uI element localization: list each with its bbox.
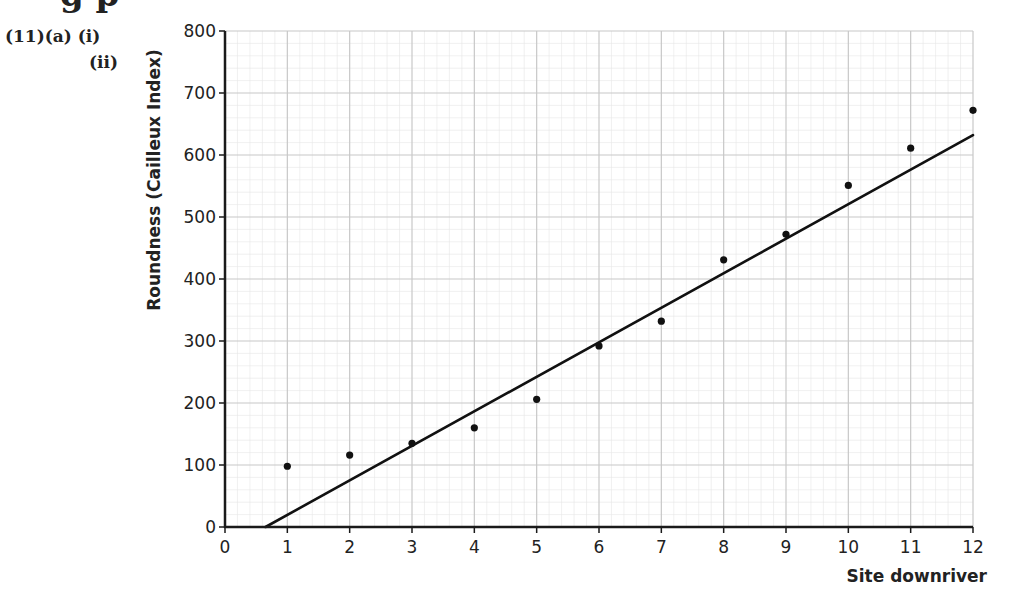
data-point: [782, 231, 789, 238]
x-tick-label: 4: [469, 537, 480, 557]
data-point: [969, 107, 976, 114]
y-tick-label: 500: [184, 207, 216, 227]
y-axis-ticks: 0100200300400500600700800: [184, 21, 225, 537]
x-tick-label: 1: [282, 537, 293, 557]
x-tick-label: 0: [220, 537, 231, 557]
x-tick-label: 8: [718, 537, 729, 557]
data-point: [720, 256, 727, 263]
x-axis-title: Site downriver: [846, 566, 987, 586]
best-fit-line: [266, 135, 973, 527]
best-fit-line-path: [266, 135, 973, 527]
scatter-chart: 0123456789101112 01002003004005006007008…: [0, 0, 1009, 595]
data-point: [845, 182, 852, 189]
x-tick-label: 2: [344, 537, 355, 557]
x-axis-ticks: 0123456789101112: [220, 527, 984, 557]
data-point: [471, 424, 478, 431]
y-tick-label: 800: [184, 21, 216, 41]
data-point: [284, 463, 291, 470]
y-tick-label: 700: [184, 83, 216, 103]
data-point: [346, 451, 353, 458]
x-tick-label: 6: [594, 537, 605, 557]
data-point: [595, 342, 602, 349]
y-tick-label: 0: [205, 517, 216, 537]
y-tick-label: 300: [184, 331, 216, 351]
x-tick-label: 12: [962, 537, 984, 557]
x-tick-label: 10: [838, 537, 860, 557]
y-tick-label: 600: [184, 145, 216, 165]
x-tick-label: 3: [407, 537, 418, 557]
y-tick-label: 200: [184, 393, 216, 413]
data-point: [658, 318, 665, 325]
x-tick-label: 9: [781, 537, 792, 557]
x-tick-label: 11: [900, 537, 922, 557]
data-point: [907, 145, 914, 152]
y-tick-label: 400: [184, 269, 216, 289]
data-point: [533, 396, 540, 403]
y-axis-title: Roundness (Cailleux Index): [144, 49, 164, 311]
y-tick-label: 100: [184, 455, 216, 475]
data-point: [408, 440, 415, 447]
x-tick-label: 7: [656, 537, 667, 557]
x-tick-label: 5: [531, 537, 542, 557]
